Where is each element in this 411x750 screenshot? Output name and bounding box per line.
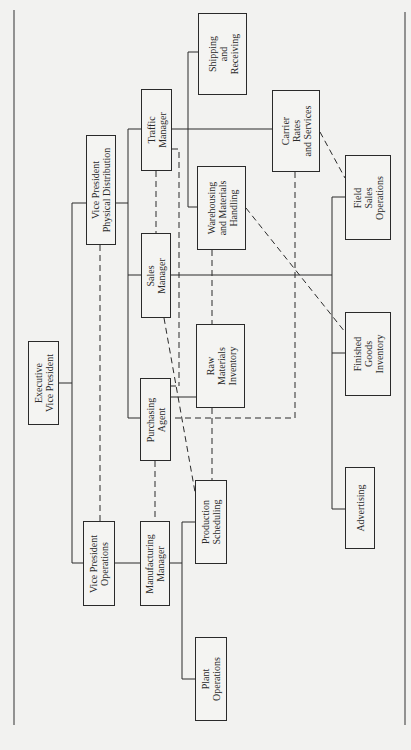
node-vp-operations: Vice President Operations <box>83 521 115 606</box>
node-warehousing-materials-handling: Warehousing and Materials Handling <box>197 166 246 250</box>
node-manufacturing-manager: Manufacturing Manager <box>140 521 170 606</box>
node-label: Sales Manager <box>145 258 167 294</box>
node-label: Executive Vice President <box>33 354 55 412</box>
node-sales-manager: Sales Manager <box>141 233 171 318</box>
node-label: Vice President Physical Distribution <box>90 148 112 233</box>
node-label: Production Scheduling <box>200 500 222 545</box>
node-vp-physical-distribution: Vice President Physical Distribution <box>86 135 116 245</box>
node-carrier-rates-services: Carrier Rates and Services <box>272 90 320 172</box>
node-label: Plant Operations <box>200 657 222 701</box>
node-label: Raw Materials Inventory <box>204 347 237 386</box>
node-label: Shipping and Receiving <box>206 34 239 75</box>
node-raw-materials-inventory: Raw Materials Inventory <box>196 324 245 408</box>
node-production-scheduling: Production Scheduling <box>195 480 227 564</box>
node-label: Manufacturing Manager <box>144 534 166 593</box>
node-finished-goods-inventory: Finished Goods Inventory <box>345 312 391 396</box>
node-label: Carrier Rates and Services <box>280 106 313 157</box>
node-shipping-and-receiving: Shipping and Receiving <box>198 13 247 95</box>
node-label: Traffic Manager <box>146 112 168 148</box>
node-label: Advertising <box>355 484 366 531</box>
node-label: Warehousing and Materials Handling <box>205 181 238 236</box>
node-plant-operations: Plant Operations <box>195 637 227 721</box>
node-executive-vice-president: Executive Vice President <box>28 341 59 425</box>
node-advertising: Advertising <box>345 467 375 549</box>
node-field-sales-operations: Field Sales Operations <box>345 155 391 240</box>
node-traffic-manager: Traffic Manager <box>141 89 172 171</box>
node-label: Vice President Operations <box>88 535 110 593</box>
node-label: Finished Goods Inventory <box>352 335 385 374</box>
node-label: Field Sales Operations <box>352 176 385 220</box>
node-purchasing-agent: Purchasing Agent <box>140 378 171 461</box>
node-label: Purchasing Agent <box>145 397 167 441</box>
